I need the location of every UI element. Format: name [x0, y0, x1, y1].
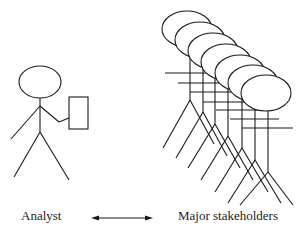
analyst-right-arm — [40, 106, 59, 122]
stakeholders-figures — [162, 11, 293, 205]
analyst-head — [19, 66, 61, 98]
stakeholder-head — [241, 75, 291, 111]
diagram-canvas — [0, 0, 307, 236]
analyst-left-leg — [14, 132, 40, 177]
stakeholders-label: Major stakeholders — [178, 208, 278, 224]
analyst-label: Analyst — [21, 208, 61, 224]
analyst-left-arm — [11, 106, 40, 139]
analyst-right-leg — [40, 132, 69, 180]
analyst-figure — [11, 66, 88, 180]
document-icon — [69, 97, 88, 129]
double-arrow — [91, 216, 153, 221]
